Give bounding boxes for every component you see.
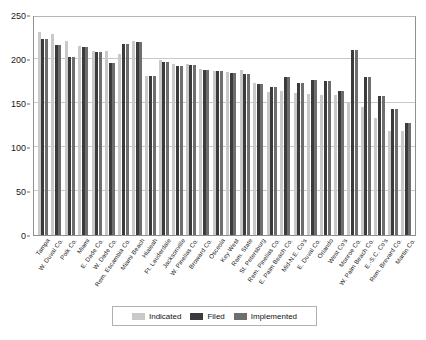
- bar-group: [184, 17, 197, 235]
- bar-indicated: [280, 91, 283, 235]
- bar-filed: [230, 73, 233, 235]
- legend-swatch-filed: [190, 313, 203, 320]
- bar-indicated: [374, 118, 377, 235]
- bar-group: [144, 17, 157, 235]
- bar-filed: [405, 123, 408, 235]
- bar-indicated: [118, 54, 121, 235]
- bar-implemented: [72, 57, 75, 235]
- bar-indicated: [132, 41, 135, 235]
- x-axis: TampaW. Duval Co.Polk Co.MiamiE. Dade Co…: [33, 237, 416, 299]
- bar-indicated: [38, 32, 41, 235]
- bar-indicated: [105, 51, 108, 235]
- bar-indicated: [199, 69, 202, 235]
- bar-filed: [338, 91, 341, 235]
- bar-filed: [136, 42, 139, 235]
- bar-indicated: [92, 51, 95, 235]
- bar-indicated: [213, 71, 216, 235]
- bar-indicated: [186, 64, 189, 235]
- bar-implemented: [45, 39, 48, 235]
- legend-entry[interactable]: Filed: [190, 312, 224, 321]
- bar-group: [332, 17, 345, 235]
- y-tick-label: 100: [11, 143, 26, 153]
- bar-group: [400, 17, 413, 235]
- y-tick-label: 200: [11, 55, 26, 65]
- plot-area: [33, 16, 416, 236]
- bar-group: [211, 17, 224, 235]
- bar-filed: [364, 77, 367, 235]
- bar-implemented: [99, 52, 102, 235]
- bar-group: [36, 17, 49, 235]
- bar-implemented: [341, 91, 344, 235]
- bar-group: [292, 17, 305, 235]
- bar-indicated: [240, 70, 243, 235]
- bar-implemented: [180, 66, 183, 235]
- bar-group: [171, 17, 184, 235]
- bar-filed: [257, 84, 260, 235]
- bar-implemented: [395, 109, 398, 235]
- bar-indicated: [361, 107, 364, 235]
- bar-implemented: [220, 71, 223, 235]
- bar-indicated: [320, 95, 323, 235]
- bar-group: [49, 17, 62, 235]
- bar-filed: [378, 96, 381, 235]
- bar-implemented: [112, 63, 115, 235]
- bar-filed: [68, 57, 71, 235]
- bar-group: [265, 17, 278, 235]
- bar-group: [130, 17, 143, 235]
- bar-group: [373, 17, 386, 235]
- y-tick-label: 0: [21, 231, 26, 241]
- bar-chart: 050100150200250 TampaW. Duval Co.Polk Co…: [0, 0, 426, 340]
- bar-filed: [109, 63, 112, 235]
- bar-implemented: [153, 76, 156, 235]
- chart-legend: IndicatedFiledImplemented: [112, 306, 317, 326]
- bar-filed: [297, 83, 300, 235]
- bar-indicated: [253, 83, 256, 235]
- bar-indicated: [401, 131, 404, 235]
- bar-filed: [55, 45, 58, 235]
- legend-entry[interactable]: Implemented: [234, 312, 297, 321]
- bar-implemented: [166, 62, 169, 235]
- bar-group: [278, 17, 291, 235]
- bar-indicated: [159, 60, 162, 235]
- bar-filed: [216, 71, 219, 235]
- bar-filed: [203, 70, 206, 235]
- legend-entry[interactable]: Indicated: [132, 312, 181, 321]
- y-tick-mark: [27, 192, 30, 193]
- bar-implemented: [139, 42, 142, 235]
- bar-implemented: [58, 45, 61, 235]
- bars-container: [34, 17, 415, 235]
- bar-indicated: [334, 95, 337, 235]
- bar-filed: [176, 66, 179, 235]
- bar-implemented: [247, 74, 250, 235]
- bar-filed: [324, 81, 327, 235]
- bar-filed: [82, 47, 85, 235]
- bar-group: [198, 17, 211, 235]
- bar-indicated: [307, 94, 310, 235]
- bar-implemented: [85, 47, 88, 235]
- bar-implemented: [274, 87, 277, 235]
- bar-indicated: [65, 41, 68, 235]
- bar-filed: [351, 50, 354, 235]
- bar-implemented: [126, 44, 129, 235]
- bar-implemented: [287, 77, 290, 235]
- y-tick-mark: [27, 60, 30, 61]
- legend-label: Implemented: [251, 312, 297, 321]
- bar-indicated: [226, 72, 229, 235]
- bar-filed: [41, 39, 44, 235]
- bar-filed: [284, 77, 287, 235]
- bar-indicated: [51, 34, 54, 235]
- bar-indicated: [78, 46, 81, 235]
- bar-group: [90, 17, 103, 235]
- bar-group: [346, 17, 359, 235]
- bar-group: [76, 17, 89, 235]
- bar-filed: [149, 76, 152, 235]
- bar-filed: [162, 62, 165, 235]
- bar-group: [157, 17, 170, 235]
- y-tick-label: 150: [11, 99, 26, 109]
- y-tick-label: 250: [11, 11, 26, 21]
- bar-implemented: [382, 96, 385, 235]
- bar-filed: [95, 52, 98, 235]
- bar-group: [386, 17, 399, 235]
- legend-swatch-indicated: [132, 313, 145, 320]
- bar-implemented: [314, 80, 317, 235]
